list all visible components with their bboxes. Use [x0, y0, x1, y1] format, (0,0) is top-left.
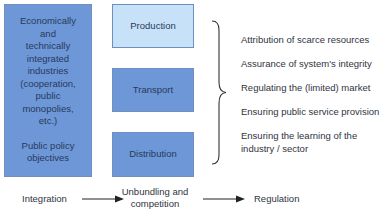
- text-line: integrated: [20, 53, 76, 66]
- text-line: Public policy: [22, 140, 75, 153]
- text-line: (cooperation,: [20, 78, 76, 91]
- text-line: and: [20, 28, 76, 41]
- integrated-industries-text: Economically and technically integrated …: [20, 15, 76, 128]
- task-item: Ensuring the learning of the: [241, 130, 357, 142]
- integration-label: Integration: [22, 193, 67, 205]
- public-policy-objectives: Public policy objectives: [22, 140, 75, 165]
- distribution-box: Distribution: [112, 132, 194, 177]
- unbundling-label: Unbundling and competition: [120, 186, 190, 209]
- curly-brace-icon: [211, 20, 227, 165]
- arrow-right-icon: [203, 194, 245, 204]
- task-item: Assurance of system's integrity: [241, 58, 372, 70]
- task-item: Ensuring public service provision: [241, 106, 379, 118]
- transport-box: Transport: [112, 68, 194, 112]
- task-item: industry / sector: [241, 143, 308, 155]
- text-line: etc.): [20, 115, 76, 128]
- text-line: public: [20, 90, 76, 103]
- text-line: competition: [120, 198, 190, 210]
- task-item: Attribution of scarce resources: [241, 34, 369, 46]
- task-item: Regulating the (limited) market: [241, 82, 370, 94]
- arrow-right-icon: [82, 194, 124, 204]
- text-line: monopolies,: [20, 103, 76, 116]
- text-line: technically: [20, 40, 76, 53]
- text-line: objectives: [22, 152, 75, 165]
- transport-label: Transport: [133, 84, 173, 97]
- regulation-label: Regulation: [254, 193, 299, 205]
- text-line: industries: [20, 65, 76, 78]
- distribution-label: Distribution: [129, 148, 177, 161]
- integrated-industries-box: Economically and technically integrated …: [4, 4, 92, 177]
- production-label: Production: [130, 20, 175, 33]
- text-line: Economically: [20, 15, 76, 28]
- production-box: Production: [112, 4, 194, 48]
- text-line: Unbundling and: [120, 186, 190, 198]
